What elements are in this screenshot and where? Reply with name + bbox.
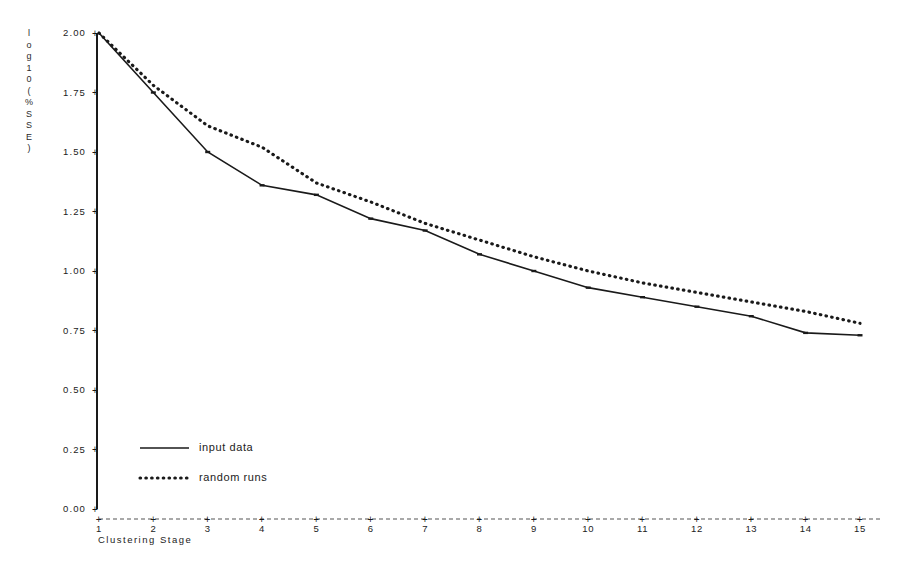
- x-axis-tick-mark: +: [205, 514, 211, 525]
- series-markers-input-data: [151, 93, 863, 336]
- series-line-input-data: [99, 33, 860, 335]
- x-axis-tick-mark: +: [802, 514, 808, 525]
- y-axis-tick-mark: +: [92, 147, 98, 158]
- x-axis-tick-mark: +: [748, 514, 754, 525]
- x-axis-tick-mark: +: [96, 514, 102, 525]
- x-axis-tick-mark: +: [150, 514, 156, 525]
- x-axis-tick-mark: +: [476, 514, 482, 525]
- x-axis-tick-mark: +: [422, 514, 428, 525]
- x-axis-tick-mark: +: [313, 514, 319, 525]
- y-axis-tick-mark: +: [92, 266, 98, 277]
- plot-area: +++++++++ +++++++++++++++: [0, 0, 909, 578]
- x-axis-tick-mark: +: [857, 514, 863, 525]
- y-axis-tick-mark: +: [92, 28, 98, 39]
- x-axis-tick-mark: +: [368, 514, 374, 525]
- y-axis-tick-mark: +: [92, 87, 98, 98]
- y-axis-tick-mark: +: [92, 325, 98, 336]
- x-axis-tick-marks: +++++++++++++++: [96, 514, 863, 525]
- chart-container: log10(%SSE) 0.000.250.500.751.001.251.50…: [0, 0, 909, 578]
- x-axis-tick-mark: +: [694, 514, 700, 525]
- y-axis-tick-mark: +: [92, 385, 98, 396]
- x-axis-tick-mark: +: [259, 514, 265, 525]
- x-axis-tick-mark: +: [585, 514, 591, 525]
- y-axis-tick-mark: +: [92, 206, 98, 217]
- series-line-random-runs: [99, 33, 860, 323]
- x-axis-tick-mark: +: [639, 514, 645, 525]
- y-axis-tick-mark: +: [92, 444, 98, 455]
- x-axis-tick-mark: +: [531, 514, 537, 525]
